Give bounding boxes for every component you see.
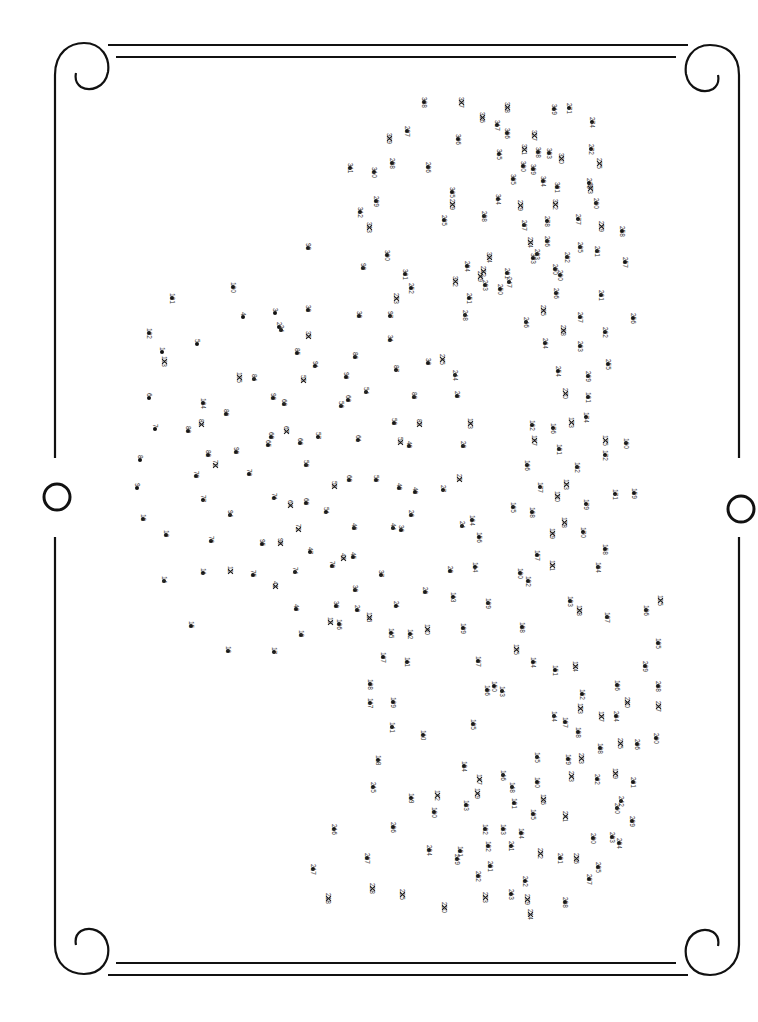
dot-number-label: 219 — [454, 854, 461, 865]
dot-number-label: 251 — [466, 293, 473, 304]
dot-number-label: 95 — [259, 539, 266, 546]
dot-number-label: 132 — [482, 824, 489, 835]
dot-number-label: 89 — [416, 419, 423, 426]
dot-number-label: 11 — [200, 568, 207, 575]
dot-number-label: 162 — [529, 420, 536, 431]
dot-number-label: 10 — [163, 530, 170, 537]
dot-number-label: 303 — [530, 253, 537, 264]
dot-number-label: 67 — [283, 426, 290, 433]
dot-number-label: 189 — [485, 598, 492, 609]
dot-number-label: 186 — [643, 605, 650, 616]
dot-number-label: 176 — [550, 423, 557, 434]
dot-number-label: 211 — [508, 841, 515, 851]
dot-number-label: 205 — [617, 738, 624, 749]
dot-number-label: 252 — [408, 283, 415, 294]
dot-number-label: 326 — [504, 128, 511, 139]
dot-number-label: 154 — [530, 657, 537, 668]
dot-number-label: 223 — [482, 892, 489, 903]
dot-number-label: 238 — [562, 897, 569, 908]
dot-number-label: 164 — [469, 515, 476, 526]
dot-number-label: 85 — [294, 348, 301, 355]
dot-number-label: 272 — [588, 144, 595, 155]
dot-number-label: 109 — [390, 697, 397, 708]
dot-number-label: 127 — [562, 717, 569, 728]
dot-number-label: 187 — [604, 612, 611, 623]
dot-number-label: 150 — [491, 681, 498, 692]
dot-number-label: 292 — [480, 266, 487, 277]
dot-number-label: 56 — [338, 401, 345, 408]
dot-number-label: 25 — [456, 474, 463, 481]
dot-number-label: 116 — [366, 612, 373, 622]
dot-number-label: 212 — [522, 876, 529, 887]
dot-number-label: 231 — [557, 853, 564, 864]
dot-number-label: 225 — [399, 889, 406, 900]
dot-number-label: 83 — [223, 409, 230, 416]
dot-number-label: 263 — [577, 341, 584, 352]
dot-number-label: 40 — [293, 604, 300, 611]
dot-number-label: 139 — [460, 623, 467, 634]
dot-number-label: 93 — [233, 447, 240, 454]
dot-number-label: 196 — [614, 680, 621, 691]
dot-number-label: 267 — [577, 312, 584, 323]
dot-number-label: 24 — [459, 521, 466, 528]
dot-number-label: 279 — [517, 200, 524, 211]
dot-number-label: 102 — [146, 328, 153, 339]
dot-number-label: 331 — [521, 144, 528, 155]
dot-number-label: 49 — [396, 483, 403, 490]
dot-number-label: 18 — [298, 630, 305, 637]
dot-number-label: 271 — [566, 103, 573, 114]
dot-number-label: 13 — [140, 514, 147, 521]
dot-number-label: 221 — [487, 861, 494, 872]
dot-number-label: 204 — [613, 711, 620, 722]
dot-number-label: 58 — [303, 460, 310, 467]
dot-number-label: 301 — [402, 269, 409, 280]
dot-number-label: 26 — [408, 510, 415, 517]
dot-number-label: 169 — [549, 528, 556, 539]
dot-number-label: 99 — [305, 243, 312, 250]
dot-number-label: 119 — [408, 793, 415, 803]
dot-number-label: 84 — [251, 374, 258, 381]
dot-number-label: 248 — [462, 310, 469, 321]
dot-number-label: 286 — [544, 236, 551, 247]
dot-number-label: 179 — [583, 499, 590, 510]
dot-number-label: 270 — [562, 388, 569, 399]
dot-number-label: 144 — [551, 711, 558, 722]
dot-number-label: 52 — [373, 475, 380, 482]
dot-number-label: 269 — [585, 371, 592, 382]
dot-number-label: 51 — [323, 507, 330, 514]
dot-number-label: 309 — [386, 133, 393, 144]
dot-number-label: 201 — [630, 777, 637, 788]
dot-number-label: 324 — [540, 176, 547, 187]
dot-number-label: 171 — [612, 489, 619, 500]
dot-number-label: 177 — [537, 482, 544, 493]
dot-number-label: 214 — [527, 909, 534, 920]
dot-number-label: 289 — [449, 199, 456, 210]
dot-number-label: 118 — [375, 755, 382, 765]
dot-number-label: 141 — [389, 722, 396, 733]
dot-number-label: 7 — [152, 424, 159, 428]
dot-number-label: 48 — [351, 523, 358, 530]
dot-number-label: 195 — [655, 638, 662, 649]
dot-number-label: 57 — [315, 432, 322, 439]
dot-number-label: 39 — [333, 601, 340, 608]
dot-number-label: 215 — [370, 782, 377, 793]
dot-number-label: 71 — [271, 493, 278, 500]
dot-number-label: 277 — [575, 214, 582, 225]
dot-number-label: 230 — [590, 833, 597, 844]
dot-number-label: 330 — [520, 161, 527, 172]
dot-number-label: 74 — [292, 567, 299, 574]
dot-number-label: 60 — [345, 395, 352, 402]
dot-number-label: 54 — [363, 387, 370, 394]
dot-number-label: 242 — [618, 796, 625, 807]
dot-number-label: 197 — [598, 711, 605, 722]
dot-number-label: 23 — [447, 566, 454, 573]
dot-number-label: 259 — [598, 221, 605, 232]
dot-number-label: 155 — [513, 644, 520, 655]
dot-number-label: 114 — [472, 562, 479, 572]
dot-number-label: 70 — [246, 469, 253, 476]
dot-number-label: 314 — [495, 194, 502, 205]
dot-number-label: 151 — [552, 665, 559, 676]
dot-number-label: 159 — [631, 488, 638, 499]
dot-number-label: 78 — [212, 460, 219, 467]
dot-number-label: 275 — [596, 158, 603, 169]
